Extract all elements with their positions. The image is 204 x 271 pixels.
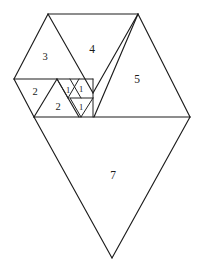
dissection-canvas: 754322111 xyxy=(0,0,204,271)
label-piece-5: 5 xyxy=(134,73,140,85)
label-piece-3: 3 xyxy=(42,51,47,62)
label-piece-4: 4 xyxy=(89,43,95,55)
label-piece-2b: 2 xyxy=(55,101,60,112)
label-piece-1a: 1 xyxy=(66,85,70,95)
label-piece-1b: 1 xyxy=(79,84,83,94)
label-piece-7: 7 xyxy=(110,169,116,181)
label-piece-1c: 1 xyxy=(79,102,83,112)
label-piece-2a: 2 xyxy=(32,86,37,97)
triangle-dissection-figure: 754322111 xyxy=(0,0,204,271)
